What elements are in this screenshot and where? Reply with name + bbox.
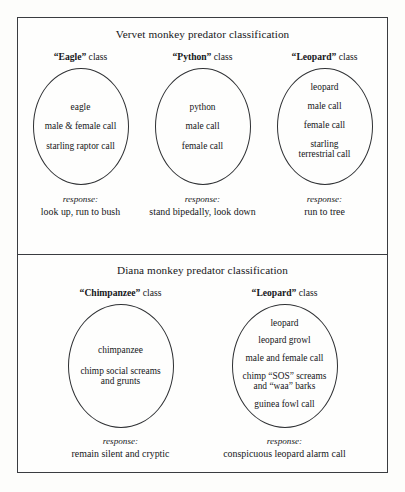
bubble-item: male and female call bbox=[246, 353, 324, 364]
class-term: “Eagle” bbox=[54, 51, 87, 62]
class-column: “Chimpanzee” classchimpanzeechimp social… bbox=[51, 287, 191, 460]
panel-vervet: Vervet monkey predator classification“Ea… bbox=[18, 18, 387, 254]
panel-title: Vervet monkey predator classification bbox=[18, 28, 387, 40]
class-column: “Python” classpythonmale callfemale call… bbox=[145, 51, 261, 218]
class-label: “Eagle” class bbox=[54, 51, 108, 62]
bubble-item: starlingterrestrial call bbox=[299, 139, 351, 160]
bubble-item-line: and “waa” barks bbox=[243, 381, 327, 392]
bubble-item: chimp social screamsand grunts bbox=[80, 366, 160, 387]
response-label: response: bbox=[223, 436, 346, 448]
bubble-item-line: terrestrial call bbox=[299, 149, 351, 160]
class-bubble: leopardmale callfemale callstarlingterre… bbox=[277, 68, 373, 185]
class-column: “Eagle” classeaglemale & female callstar… bbox=[23, 51, 139, 218]
class-bubble: pythonmale callfemale call bbox=[155, 68, 251, 185]
response-block: response:remain silent and cryptic bbox=[72, 436, 170, 460]
class-label: “Leopard” class bbox=[252, 287, 318, 298]
class-bubble: leopardleopard growlmale and female call… bbox=[232, 304, 338, 428]
bubble-item: eagle bbox=[71, 102, 91, 113]
bubble-item: male call bbox=[307, 101, 341, 112]
response-block: response:run to tree bbox=[304, 194, 345, 218]
class-term: “Leopard” bbox=[252, 287, 297, 298]
bubble-item: python bbox=[189, 102, 215, 113]
class-column: “Leopard” classleopardleopard growlmale … bbox=[215, 287, 355, 460]
bubble-item: leopard growl bbox=[258, 335, 310, 346]
response-text: remain silent and cryptic bbox=[72, 448, 170, 461]
class-bubble: eaglemale & female callstarling raptor c… bbox=[33, 68, 129, 185]
bubble-item: male call bbox=[185, 121, 219, 132]
response-label: response: bbox=[304, 194, 345, 206]
response-text: run to tree bbox=[304, 206, 345, 219]
class-suffix: class bbox=[296, 287, 317, 298]
response-block: response:conspicuous leopard alarm call bbox=[223, 436, 346, 460]
class-term: “Leopard” bbox=[292, 51, 337, 62]
bubble-item: leopard bbox=[310, 82, 338, 93]
class-suffix: class bbox=[86, 51, 107, 62]
class-label: “Chimpanzee” class bbox=[80, 287, 162, 298]
class-label: “Python” class bbox=[173, 51, 233, 62]
bubble-item: female call bbox=[182, 141, 223, 152]
bubble-item-line: and grunts bbox=[80, 376, 160, 387]
class-suffix: class bbox=[140, 287, 161, 298]
class-columns: “Eagle” classeaglemale & female callstar… bbox=[18, 51, 387, 218]
class-term: “Python” bbox=[173, 51, 212, 62]
class-suffix: class bbox=[336, 51, 357, 62]
class-label: “Leopard” class bbox=[292, 51, 358, 62]
bubble-item: chimp “SOS” screamsand “waa” barks bbox=[243, 371, 327, 392]
predator-classification-figure: Vervet monkey predator classification“Ea… bbox=[17, 17, 388, 473]
bubble-item: chimpanzee bbox=[98, 345, 143, 356]
response-label: response: bbox=[41, 194, 120, 206]
bubble-item: starling raptor call bbox=[46, 141, 115, 152]
response-block: response:look up, run to bush bbox=[41, 194, 120, 218]
panel-diana: Diana monkey predator classification“Chi… bbox=[18, 254, 387, 472]
class-term: “Chimpanzee” bbox=[80, 287, 141, 298]
bubble-item: leopard bbox=[270, 318, 298, 329]
class-column: “Leopard” classleopardmale callfemale ca… bbox=[267, 51, 383, 218]
class-suffix: class bbox=[211, 51, 232, 62]
bubble-item: guinea fowl call bbox=[254, 399, 314, 410]
response-text: conspicuous leopard alarm call bbox=[223, 448, 346, 461]
response-text: stand bipedally, look down bbox=[149, 206, 255, 219]
response-label: response: bbox=[149, 194, 255, 206]
class-bubble: chimpanzeechimp social screamsand grunts bbox=[68, 304, 174, 428]
response-text: look up, run to bush bbox=[41, 206, 120, 219]
response-block: response:stand bipedally, look down bbox=[149, 194, 255, 218]
bubble-item: female call bbox=[304, 120, 345, 131]
bubble-item: male & female call bbox=[45, 121, 117, 132]
class-columns: “Chimpanzee” classchimpanzeechimp social… bbox=[18, 287, 387, 460]
panel-title: Diana monkey predator classification bbox=[18, 264, 387, 276]
response-label: response: bbox=[72, 436, 170, 448]
